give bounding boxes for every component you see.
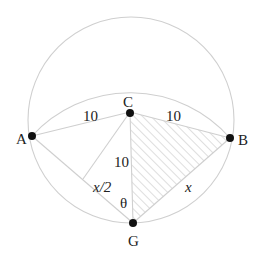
point-g — [129, 219, 137, 227]
label-a: A — [16, 131, 27, 147]
label-g: G — [128, 233, 139, 249]
label-gb-length: x — [184, 179, 192, 195]
point-a — [28, 132, 36, 140]
label-half-ag: x/2 — [92, 179, 112, 195]
label-c: C — [123, 94, 133, 110]
label-cg-length: 10 — [114, 154, 129, 170]
label-b: B — [238, 132, 248, 148]
geometry-diagram: A B C G 10 10 10 x/2 x θ — [0, 0, 264, 260]
point-c — [126, 109, 134, 117]
label-cb-length: 10 — [166, 108, 181, 124]
label-ac-length: 10 — [83, 108, 98, 124]
label-theta: θ — [120, 195, 127, 211]
point-b — [226, 134, 234, 142]
shaded-triangle-cbg — [130, 112, 230, 223]
